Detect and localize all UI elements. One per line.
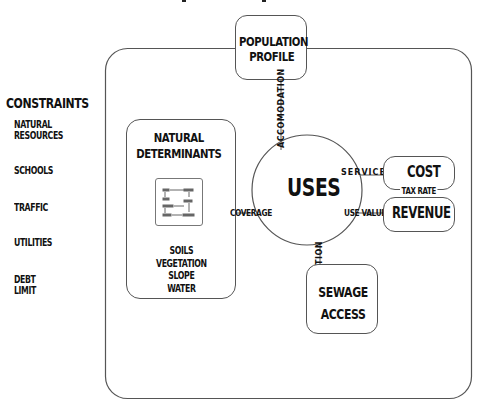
constraint-schools: SCHOOLS (14, 166, 53, 176)
link-accommodation: ACCOMODATION (278, 68, 286, 148)
sewage-line2: ACCESS (315, 303, 371, 325)
natural-line1: NATURAL (125, 130, 233, 146)
sewage-line1: SEWAGE (315, 281, 371, 303)
constraint-debt-limit: DEBT LIMIT (14, 274, 36, 296)
link-tax-rate: TAX RATE (400, 187, 437, 196)
revenue-node: REVENUE (383, 197, 455, 232)
link-use-value: USE VALUE (344, 208, 386, 218)
constraint-natural-resources: NATURAL RESOURCES (14, 119, 63, 141)
mini-diagram-icon (156, 179, 202, 225)
natural-determinants-node: NATURAL DETERMINANTS SOILS VEGETATION SL… (126, 119, 236, 299)
population-profile-node: POPULATION PROFILE (235, 15, 307, 80)
factor-vegetation: VEGETATION (133, 258, 230, 271)
revenue-label: REVENUE (392, 206, 451, 221)
population-line1: POPULATION (239, 34, 305, 49)
factor-water: WATER (133, 283, 230, 296)
constraint-traffic: TRAFFIC (14, 203, 48, 213)
cost-label: COST (407, 165, 440, 180)
factor-slope: SLOPE (133, 270, 230, 283)
natural-line2: DETERMINANTS (125, 146, 233, 162)
factor-soils: SOILS (133, 245, 230, 258)
natural-factors: SOILS VEGETATION SLOPE WATER (133, 245, 230, 295)
link-coverage: COVERAGE (230, 208, 272, 218)
constraint-utilities: UTILITIES (14, 238, 52, 248)
mini-diagram-thumbnail (155, 178, 203, 226)
population-line2: PROFILE (239, 49, 305, 64)
sewage-access-node: SEWAGE ACCESS (306, 264, 378, 334)
cost-node: COST (383, 156, 455, 190)
constraints-heading: CONSTRAINTS (6, 96, 89, 110)
uses-label: USES (287, 176, 340, 200)
